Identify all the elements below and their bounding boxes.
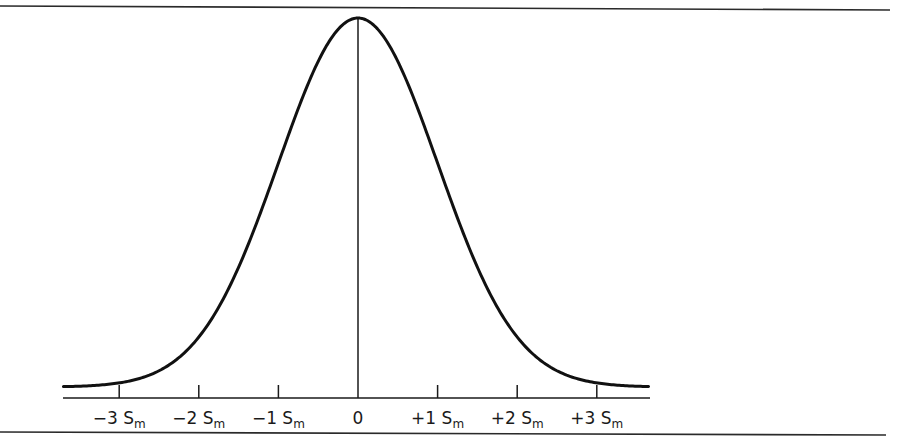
- top-rule: [0, 6, 890, 10]
- normal-distribution-figure: −3 Sm−2 Sm−1 Sm0+1 Sm+2 Sm+3 Sm: [0, 0, 899, 446]
- x-tick-label: −2 Sm: [172, 408, 225, 431]
- x-tick-label: +3 Sm: [570, 408, 623, 431]
- x-tick-label: −3 Sm: [93, 408, 146, 431]
- x-tick-label: 0: [353, 408, 364, 428]
- x-tick-label: +1 Sm: [411, 408, 464, 431]
- bottom-rule: [0, 432, 886, 435]
- x-tick-label: −1 Sm: [252, 408, 305, 431]
- x-axis-labels: −3 Sm−2 Sm−1 Sm0+1 Sm+2 Sm+3 Sm: [93, 408, 624, 431]
- x-tick-label: +2 Sm: [491, 408, 544, 431]
- normal-curve: [63, 18, 648, 387]
